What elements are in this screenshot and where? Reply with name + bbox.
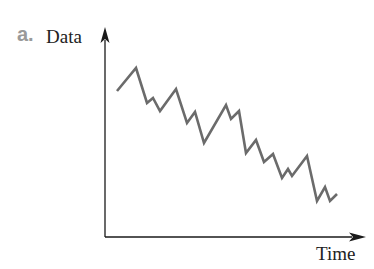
x-axis [105, 233, 366, 242]
chart-canvas [0, 0, 374, 269]
data-series-line [117, 68, 337, 201]
y-axis [101, 27, 110, 237]
